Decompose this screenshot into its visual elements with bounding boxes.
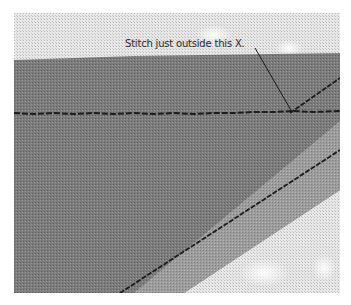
fabric-photo: Stitch just outside this X. <box>14 13 340 293</box>
fabric-illustration <box>14 13 340 293</box>
callout-label: Stitch just outside this X. <box>125 38 245 49</box>
